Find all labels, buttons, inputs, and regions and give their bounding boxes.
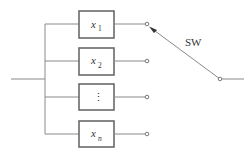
circuit-diagram: x 1 x 2 ⋮ x n SW	[0, 0, 251, 159]
block-subscript: 1	[98, 24, 102, 33]
terminal-1	[145, 22, 149, 26]
switch-pivot	[218, 77, 222, 81]
switch-label: SW	[185, 36, 202, 48]
block-label: x	[90, 18, 96, 30]
block-ellipsis: ⋮	[79, 84, 114, 110]
terminal-4	[145, 132, 149, 136]
block-label: ⋮	[93, 91, 104, 103]
block-x1: x 1	[79, 11, 114, 38]
terminal-2	[145, 59, 149, 63]
block-subscript: n	[98, 134, 102, 143]
block-subscript: 2	[98, 61, 102, 70]
block-label: x	[90, 54, 96, 66]
block-x2: x 2	[79, 48, 114, 75]
block-label: x	[90, 127, 96, 139]
block-xn: x n	[79, 121, 114, 147]
terminal-3	[145, 95, 149, 99]
